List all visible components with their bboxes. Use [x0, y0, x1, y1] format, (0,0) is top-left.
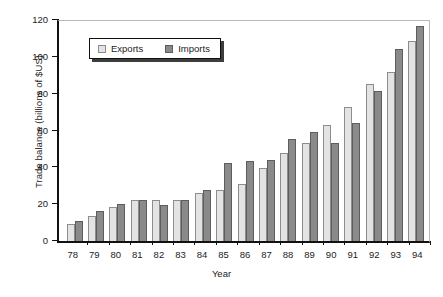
bar-imports — [395, 49, 403, 241]
x-axis-tick — [216, 241, 217, 245]
x-axis-tick — [323, 241, 324, 245]
bar-imports — [160, 205, 168, 241]
x-axis-tick — [302, 241, 303, 245]
bar-exports — [216, 190, 224, 241]
bar-imports — [117, 204, 125, 241]
x-axis-tick — [109, 241, 110, 245]
bar-exports — [109, 207, 117, 241]
bar-exports — [408, 41, 416, 241]
x-axis-tick-label: 93 — [385, 249, 407, 260]
bar-imports — [352, 123, 360, 241]
x-axis-tick — [409, 241, 410, 245]
bar-imports — [224, 163, 232, 241]
x-axis-tick-label: 94 — [407, 249, 429, 260]
legend-entry-imports: Imports — [165, 43, 210, 54]
x-axis-tick-label: 90 — [320, 249, 342, 260]
bar-exports — [88, 216, 96, 241]
bar-imports — [288, 139, 296, 241]
bar-imports — [416, 26, 424, 241]
legend-label-exports: Exports — [111, 43, 143, 54]
y-axis-tick-label: 100 — [32, 51, 48, 62]
x-axis-tick-label: 81 — [127, 249, 149, 260]
x-axis-tick-label: 87 — [256, 249, 278, 260]
bar-exports — [366, 84, 374, 241]
bar-imports — [139, 200, 147, 241]
legend-swatch-exports — [98, 45, 106, 53]
bar-imports — [181, 200, 189, 241]
bar-group — [406, 21, 427, 241]
y-axis-tick: 60 — [52, 130, 59, 131]
x-axis-tick — [87, 241, 88, 245]
bar-group — [320, 21, 341, 241]
bar-group — [278, 21, 299, 241]
legend-swatch-imports — [165, 45, 173, 53]
x-axis-tick-label: 91 — [342, 249, 364, 260]
bar-exports — [259, 168, 267, 241]
x-axis-tick — [430, 241, 431, 245]
bar-exports — [344, 107, 352, 241]
bar-group — [256, 21, 277, 241]
x-axis-tick — [237, 241, 238, 245]
y-axis-tick: 120 — [52, 19, 59, 20]
y-axis-tick-label: 40 — [37, 161, 48, 172]
legend-entry-exports: Exports — [98, 43, 143, 54]
x-axis-tick — [280, 241, 281, 245]
x-axis-tick-label: 84 — [191, 249, 213, 260]
x-axis-tick-label: 88 — [277, 249, 299, 260]
x-axis-tick-labels: 7879808182838485868788899091929394 — [57, 249, 430, 260]
x-axis-tick — [259, 241, 260, 245]
legend-label-imports: Imports — [178, 43, 210, 54]
bar-imports — [331, 143, 339, 241]
bar-imports — [267, 160, 275, 241]
x-axis-tick — [152, 241, 153, 245]
x-axis-tick-label: 79 — [84, 249, 106, 260]
y-axis-tick: 40 — [52, 166, 59, 167]
x-axis-tick-label: 82 — [148, 249, 170, 260]
bar-imports — [374, 91, 382, 241]
bar-group — [363, 21, 384, 241]
y-axis-tick: 80 — [52, 93, 59, 94]
y-axis-tick: 100 — [52, 56, 59, 57]
bar-exports — [238, 184, 246, 241]
bar-imports — [75, 221, 83, 241]
chart-legend: Exports Imports — [89, 38, 221, 59]
bar-exports — [387, 72, 395, 241]
bar-imports — [246, 161, 254, 241]
x-axis-tick — [366, 241, 367, 245]
x-axis-tick — [194, 241, 195, 245]
bar-exports — [67, 224, 75, 241]
x-axis-tick-label: 85 — [213, 249, 235, 260]
x-axis-tick — [130, 241, 131, 245]
x-axis-tick-label: 89 — [299, 249, 321, 260]
bar-group — [384, 21, 405, 241]
bar-imports — [203, 190, 211, 241]
y-axis-tick-label: 0 — [43, 235, 48, 246]
bar-imports — [310, 132, 318, 241]
y-axis-tick: 20 — [52, 203, 59, 204]
x-axis-tick — [344, 241, 345, 245]
x-axis-tick-label: 92 — [363, 249, 385, 260]
x-axis-tick — [173, 241, 174, 245]
y-axis-tick-label: 20 — [37, 198, 48, 209]
x-axis-tick-label: 86 — [234, 249, 256, 260]
bar-exports — [302, 143, 310, 241]
bar-exports — [131, 200, 139, 241]
bar-exports — [173, 200, 181, 241]
bar-exports — [323, 125, 331, 241]
y-axis-tick: 0 — [52, 240, 59, 241]
chart-figure: Trade balance (billions of $US) 02040608… — [0, 0, 443, 297]
bar-imports — [96, 211, 104, 241]
y-axis-tick-label: 120 — [32, 14, 48, 25]
bar-exports — [195, 193, 203, 241]
x-axis-tick-label: 78 — [62, 249, 84, 260]
x-axis-tick-label: 80 — [105, 249, 127, 260]
bar-exports — [280, 153, 288, 241]
y-axis-tick-label: 60 — [37, 125, 48, 136]
y-axis-tick-label: 80 — [37, 88, 48, 99]
x-axis-tick-label: 83 — [170, 249, 192, 260]
bar-exports — [152, 200, 160, 241]
x-axis-tick — [387, 241, 388, 245]
bar-group — [235, 21, 256, 241]
bar-group — [299, 21, 320, 241]
bar-group — [64, 21, 85, 241]
